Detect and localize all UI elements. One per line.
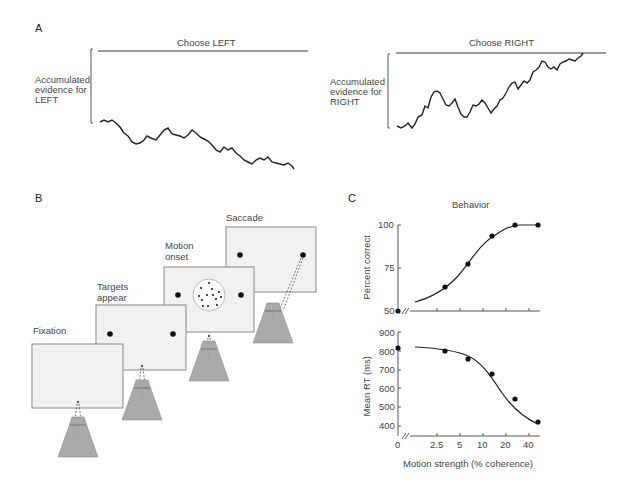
bottom-axes <box>398 332 540 439</box>
panel-c-graphics <box>0 0 636 489</box>
percent-correct-points <box>395 222 540 313</box>
percent-correct-fit <box>415 225 538 302</box>
mean-rt-points <box>395 345 540 424</box>
mean-rt-fit <box>415 347 538 424</box>
